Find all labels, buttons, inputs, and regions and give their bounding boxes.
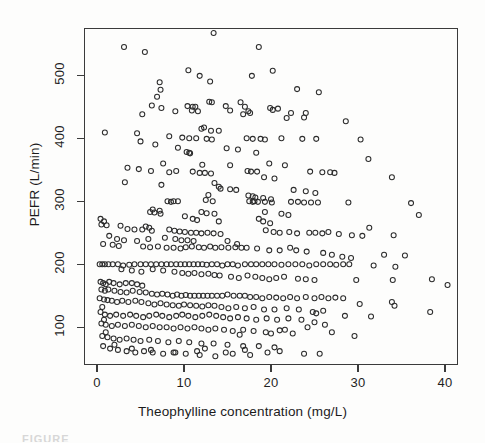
scatter-point [222, 327, 227, 332]
scatter-point [416, 213, 421, 218]
scatter-point [270, 68, 275, 73]
scatter-point [223, 350, 228, 355]
scatter-point [140, 283, 145, 288]
x-tick-mark [183, 365, 184, 372]
scatter-point [135, 282, 140, 287]
scatter-point [178, 246, 183, 251]
scatter-point [208, 79, 213, 84]
scatter-point [200, 313, 205, 318]
scatter-point [267, 294, 272, 299]
scatter-point [211, 231, 216, 236]
scatter-point [305, 325, 310, 330]
scatter-point [228, 316, 233, 321]
scatter-point [319, 294, 324, 299]
scatter-point [391, 233, 396, 238]
scatter-point [147, 313, 152, 318]
scatter-point [153, 142, 158, 147]
scatter-point [269, 331, 274, 336]
scatter-point [274, 276, 279, 281]
scatter-point [160, 313, 165, 318]
scatter-point [357, 301, 362, 306]
scatter-point [445, 283, 450, 288]
scatter-point [161, 161, 166, 166]
scatter-point [149, 103, 154, 108]
scatter-point [192, 325, 197, 330]
scatter-point [239, 245, 244, 250]
scatter-point [209, 137, 214, 142]
scatter-point [349, 233, 354, 238]
scatter-point [123, 281, 128, 286]
x-tick-mark [357, 365, 358, 372]
scatter-point [112, 288, 117, 293]
scatter-point [230, 351, 235, 356]
scatter-point [182, 230, 187, 235]
scatter-point [277, 230, 282, 235]
scatter-point [175, 145, 180, 150]
scatter-point [108, 346, 113, 351]
scatter-point [224, 146, 229, 151]
scatter-point [164, 245, 169, 250]
scatter-point [152, 302, 157, 307]
scatter-point [282, 327, 287, 332]
scatter-point [205, 230, 210, 235]
scatter-point [188, 230, 193, 235]
scatter-point [238, 100, 243, 105]
scatter-point [267, 248, 272, 253]
scatter-point [309, 200, 314, 205]
scatter-point [212, 211, 217, 216]
scatter-point [149, 291, 154, 296]
scatter-point [124, 336, 129, 341]
scatter-point [326, 230, 331, 235]
scatter-point [101, 344, 106, 349]
scatter-point [159, 262, 164, 267]
scatter-point [208, 244, 213, 249]
scatter-point [200, 162, 205, 167]
scatter-point [185, 104, 190, 109]
scatter-point [242, 306, 247, 311]
scatter-point [307, 263, 312, 268]
scatter-point [114, 312, 119, 317]
scatter-point [234, 305, 239, 310]
scatter-point [228, 274, 233, 279]
scatter-point [115, 347, 120, 352]
scatter-point [275, 317, 280, 322]
scatter-point [182, 214, 187, 219]
scatter-point [186, 313, 191, 318]
scatter-point [161, 351, 166, 356]
scatter-point [215, 262, 220, 267]
scatter-point [371, 263, 376, 268]
scatter-point [219, 305, 224, 310]
scatter-point [193, 315, 198, 320]
scatter-point [226, 245, 231, 250]
scatter-point [279, 211, 284, 216]
caption-fragment: FIGURE [22, 433, 70, 442]
scatter-point [234, 187, 239, 192]
scatter-point [303, 189, 308, 194]
scatter-point [129, 322, 134, 327]
scatter-point [116, 243, 121, 248]
scatter-point [272, 345, 277, 350]
scatter-point [200, 304, 205, 309]
scatter-point [219, 245, 224, 250]
scatter-point [176, 339, 181, 344]
scatter-point [304, 249, 309, 254]
scatter-point [302, 115, 307, 120]
scatter-point [110, 242, 115, 247]
scatter-point [195, 349, 200, 354]
scatter-point [329, 330, 334, 335]
scatter-point [242, 104, 247, 109]
scatter-point [244, 245, 249, 250]
scatter-point [347, 262, 352, 267]
scatter-point [251, 328, 256, 333]
scatter-point [279, 262, 284, 267]
scatter-point [183, 351, 188, 356]
scatter-point [196, 245, 201, 250]
scatter-point [157, 80, 162, 85]
scatter-point [139, 269, 144, 274]
y-tick-mark [77, 327, 84, 328]
scatter-point [204, 136, 209, 141]
scatter-point [271, 230, 276, 235]
scatter-point [161, 268, 166, 273]
scatter-point [262, 175, 267, 180]
scatter-point [390, 277, 395, 282]
